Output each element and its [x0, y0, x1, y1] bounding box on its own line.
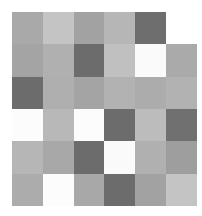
- grid-row: [12, 174, 197, 206]
- grid-cell: [43, 174, 74, 206]
- grid-row: [12, 141, 197, 173]
- grid-cell: [135, 109, 166, 141]
- grid-cell: [104, 174, 135, 206]
- grid-row: [12, 12, 197, 44]
- grid-cell: [43, 12, 74, 44]
- grid-cell: [104, 12, 135, 44]
- grid-cell: [12, 174, 43, 206]
- grid-cell: [43, 109, 74, 141]
- grid-cell: [104, 44, 135, 76]
- grid-cell: [166, 174, 197, 206]
- grid-cell: [74, 174, 105, 206]
- grid-cell: [43, 141, 74, 173]
- grid-cell: [12, 141, 43, 173]
- grid-cell: [166, 77, 197, 109]
- grid-row: [12, 44, 197, 76]
- grid-cell: [104, 109, 135, 141]
- grid-row: [12, 109, 197, 141]
- grid-cell: [166, 44, 197, 76]
- grid-cell: [166, 109, 197, 141]
- grid-cell: [135, 12, 166, 44]
- grid-cell: [135, 77, 166, 109]
- grid-cell: [43, 44, 74, 76]
- grid-cell: [104, 141, 135, 173]
- grid-cell: [12, 12, 43, 44]
- grid-cell: [166, 12, 197, 44]
- grid-cell: [135, 174, 166, 206]
- gray-tile-grid: [12, 12, 197, 206]
- grid-cell: [135, 141, 166, 173]
- grid-cell: [12, 77, 43, 109]
- grid-cell: [12, 44, 43, 76]
- grid-cell: [74, 141, 105, 173]
- grid-cell: [12, 109, 43, 141]
- grid-cell: [104, 77, 135, 109]
- grid-cell: [74, 12, 105, 44]
- grid-cell: [74, 44, 105, 76]
- grid-row: [12, 77, 197, 109]
- grid-cell: [135, 44, 166, 76]
- grid-cell: [74, 77, 105, 109]
- grid-cell: [43, 77, 74, 109]
- grid-cell: [74, 109, 105, 141]
- grid-cell: [166, 141, 197, 173]
